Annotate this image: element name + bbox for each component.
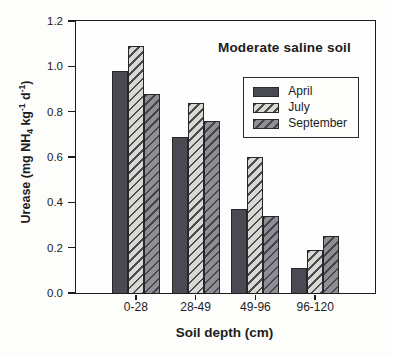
y-tick-label: 1.2 (47, 15, 63, 27)
bar-april-28-49 (172, 137, 188, 293)
bar-july-0-28 (128, 46, 144, 293)
bar-september-28-49 (204, 121, 220, 293)
legend-item-july: July (253, 101, 347, 114)
bar-september-0-28 (144, 94, 160, 293)
bar-july-96-120 (307, 250, 323, 293)
x-tick-mark (255, 295, 257, 300)
bar-july-49-96 (247, 157, 263, 293)
y-tick-label: 0.2 (47, 242, 63, 254)
legend: AprilJulySeptember (243, 77, 359, 138)
legend-item-april: April (253, 85, 347, 98)
bar-september-49-96 (263, 216, 279, 293)
legend-label-july: July (288, 101, 309, 114)
y-tick-label: 0.4 (47, 196, 63, 208)
legend-swatch-july (253, 103, 279, 113)
y-tick-mark (68, 111, 75, 113)
x-axis-label: Soil depth (cm) (75, 325, 374, 340)
plot-area: Moderate saline soil AprilJulySeptember … (75, 20, 376, 294)
legend-swatch-september (253, 119, 279, 129)
y-tick-label: 1.0 (47, 60, 63, 72)
bar-july-28-49 (188, 103, 204, 293)
y-tick-mark (68, 292, 75, 294)
y-tick-mark (68, 66, 75, 68)
legend-label-april: April (288, 85, 312, 98)
y-tick-label: 0.6 (47, 151, 63, 163)
bar-april-0-28 (112, 71, 128, 293)
y-tick-mark (68, 156, 75, 158)
legend-label-september: September (288, 117, 347, 130)
x-tick-mark (314, 295, 316, 300)
y-tick-mark (68, 20, 75, 22)
legend-swatch-april (253, 87, 279, 97)
x-tick-label-28-49: 28-49 (180, 300, 211, 314)
bar-september-96-120 (323, 236, 339, 293)
x-tick-label-49-96: 49-96 (240, 300, 271, 314)
y-tick-label: 0.8 (47, 106, 63, 118)
y-axis-label-text: Urease (mg NH4 kg-1 d-1) (17, 81, 36, 224)
y-tick-mark (68, 247, 75, 249)
bar-april-96-120 (291, 268, 307, 293)
x-tick-mark (135, 295, 137, 300)
x-tick-label-0-28: 0-28 (124, 300, 148, 314)
x-tick-label-96-120: 96-120 (297, 300, 334, 314)
chart-title: Moderate saline soil (218, 40, 351, 55)
legend-item-september: September (253, 117, 347, 130)
bar-april-49-96 (231, 209, 247, 293)
figure: Urease (mg NH4 kg-1 d-1) Moderate saline… (0, 0, 393, 357)
y-tick-label: 0.0 (47, 287, 63, 299)
y-tick-mark (68, 202, 75, 204)
x-tick-mark (195, 295, 197, 300)
